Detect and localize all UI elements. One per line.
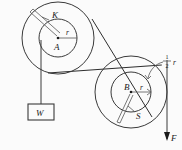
half-radius-leader	[148, 62, 163, 78]
label-left-radius: r	[66, 28, 69, 37]
belt-group	[48, 19, 162, 117]
rope-s-cap	[117, 122, 120, 123]
half-radius-unit: r	[173, 58, 176, 67]
label-S: S	[136, 111, 141, 121]
label-half-radius: 1 2 r	[163, 54, 176, 69]
force-arrow-head	[164, 132, 170, 141]
label-B: B	[124, 82, 130, 92]
right-center-dot	[130, 91, 133, 94]
rope-k-leader	[42, 17, 49, 20]
label-right-radius: r	[140, 83, 143, 92]
half-radius-denominator: 2	[166, 63, 169, 69]
belt-strand-lower	[48, 65, 162, 73]
label-F: F	[170, 133, 177, 143]
rope-s-leader	[128, 106, 135, 112]
pulley-diagram: K r A B r S W F 1 2 r	[0, 0, 182, 150]
label-K: K	[51, 10, 59, 20]
half-radius-numerator: 1	[166, 54, 169, 60]
diagram-canvas: K r A B r S W F 1 2 r	[0, 0, 182, 150]
left-center-dot	[57, 37, 60, 40]
force-arrow-group	[164, 60, 170, 141]
label-W: W	[36, 108, 45, 118]
rope-k-cap	[30, 9, 33, 12]
label-A: A	[53, 42, 60, 52]
